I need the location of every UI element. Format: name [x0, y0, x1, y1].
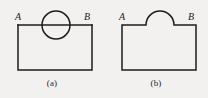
- rectangle-with-bump-b: [122, 11, 196, 70]
- rectangle-sides-a: [18, 25, 92, 70]
- vertex-label-a-right: B: [84, 12, 90, 22]
- vertex-label-a-left: A: [15, 12, 21, 22]
- figure-panel-a: A B (a): [0, 0, 104, 98]
- figure-panel-b: A B (b): [104, 0, 208, 98]
- figure-plate: A B (a) A B (b): [0, 0, 208, 98]
- vertex-label-b-left: A: [119, 12, 125, 22]
- caption-a: (a): [0, 78, 104, 88]
- vertex-label-b-right: B: [188, 12, 194, 22]
- caption-b: (b): [104, 78, 208, 88]
